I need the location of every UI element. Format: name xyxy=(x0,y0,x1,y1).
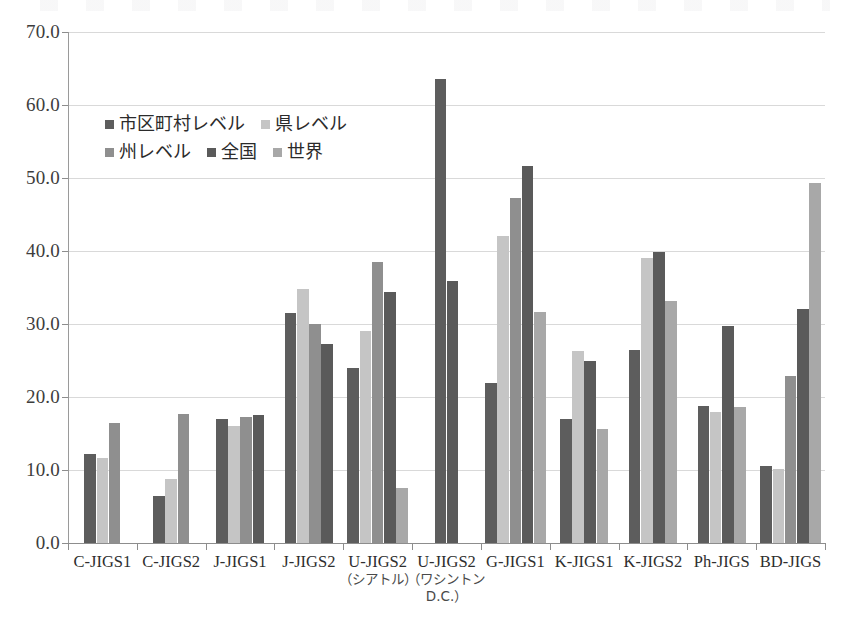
bar xyxy=(797,309,809,543)
legend-swatch-icon xyxy=(105,148,114,157)
bar xyxy=(84,454,96,543)
bar xyxy=(165,479,177,543)
legend-label: 全国 xyxy=(221,142,257,162)
y-tick-label: 70.0 xyxy=(26,22,60,41)
x-category-label-text: J-JIGS2 xyxy=(282,552,335,571)
bar xyxy=(240,417,252,543)
bar xyxy=(641,258,653,543)
bar xyxy=(285,313,297,543)
bar xyxy=(665,301,677,543)
chart-legend: 市区町村レベル県レベル 州レベル全国世界 xyxy=(105,110,405,166)
bar xyxy=(396,488,408,543)
x-tick-mark xyxy=(619,543,620,550)
x-tick-mark xyxy=(343,543,344,550)
bar xyxy=(347,368,359,543)
bar xyxy=(809,183,821,543)
x-tick-mark xyxy=(687,543,688,550)
bar xyxy=(534,312,546,543)
x-category-label-text: Ph-JIGS xyxy=(694,552,750,571)
bar xyxy=(447,281,459,543)
legend-swatch-icon xyxy=(261,120,270,129)
legend-item: 世界 xyxy=(273,142,323,162)
bar-chart: 0.010.020.030.040.050.060.070.0 C-JIGS1C… xyxy=(0,0,843,625)
x-category-label-text: J-JIGS1 xyxy=(213,552,266,571)
x-tick-mark xyxy=(481,543,482,550)
x-tick-mark xyxy=(274,543,275,550)
x-tick-mark xyxy=(412,543,413,550)
x-tick-mark xyxy=(137,543,138,550)
x-tick-mark xyxy=(68,543,69,550)
legend-row-1: 市区町村レベル県レベル xyxy=(105,110,405,138)
y-tick-label: 20.0 xyxy=(26,387,60,406)
legend-swatch-icon xyxy=(105,120,114,129)
bar xyxy=(785,376,797,543)
bar xyxy=(228,426,240,543)
x-category-label-text: C-JIGS1 xyxy=(74,552,132,571)
cropped-title-artifact xyxy=(40,0,830,11)
bar xyxy=(597,429,609,543)
legend-item: 市区町村レベル xyxy=(105,114,245,134)
bar xyxy=(360,331,372,543)
x-category-sublabel-text: D.C.） xyxy=(399,588,494,605)
plot-area xyxy=(68,32,825,543)
y-tick-label: 0.0 xyxy=(36,533,60,552)
bar xyxy=(773,469,785,543)
bar xyxy=(710,412,722,543)
x-category-sublabel-text: （ワシントン xyxy=(399,571,494,588)
bar xyxy=(297,289,309,543)
bar xyxy=(497,236,509,543)
legend-label: 州レベル xyxy=(119,142,191,162)
legend-label: 県レベル xyxy=(275,114,347,134)
bar xyxy=(153,496,165,543)
bar xyxy=(560,419,572,543)
legend-item: 県レベル xyxy=(261,114,347,134)
bar xyxy=(629,350,641,543)
x-tick-mark xyxy=(756,543,757,550)
x-tick-mark xyxy=(550,543,551,550)
legend-label: 市区町村レベル xyxy=(119,114,245,134)
bar xyxy=(178,414,190,543)
bar xyxy=(321,344,333,543)
bar xyxy=(653,252,665,543)
bar xyxy=(384,292,396,543)
legend-label: 世界 xyxy=(287,142,323,162)
bar xyxy=(109,423,121,543)
bar xyxy=(485,383,497,543)
bar xyxy=(435,79,447,543)
x-category-label-text: BD-JIGS xyxy=(760,552,821,571)
legend-swatch-icon xyxy=(273,148,282,157)
bar xyxy=(372,262,384,543)
legend-item: 州レベル xyxy=(105,142,191,162)
bar xyxy=(522,166,534,543)
bar xyxy=(584,361,596,544)
x-tick-mark xyxy=(206,543,207,550)
bar xyxy=(698,406,710,543)
legend-row-2: 州レベル全国世界 xyxy=(105,138,405,166)
bar xyxy=(572,351,584,543)
legend-item: 全国 xyxy=(207,142,257,162)
bar xyxy=(253,415,265,543)
x-category-label-text: C-JIGS2 xyxy=(142,552,200,571)
bar xyxy=(734,407,746,544)
y-tick-label: 40.0 xyxy=(26,241,60,260)
bar xyxy=(216,419,228,543)
bar xyxy=(510,198,522,543)
bar xyxy=(309,324,321,543)
y-tick-label: 30.0 xyxy=(26,314,60,333)
x-tick-mark xyxy=(825,543,826,550)
bar xyxy=(722,326,734,543)
bar xyxy=(97,458,109,543)
bar xyxy=(760,466,772,543)
legend-swatch-icon xyxy=(207,148,216,157)
y-tick-label: 60.0 xyxy=(26,95,60,114)
y-tick-label: 50.0 xyxy=(26,168,60,187)
x-category-label: BD-JIGS xyxy=(743,552,838,571)
x-axis-line xyxy=(68,543,825,544)
y-tick-label: 10.0 xyxy=(26,460,60,479)
